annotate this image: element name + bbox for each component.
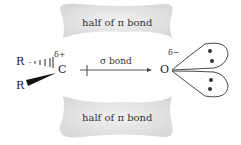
oxygen-partial-charge: δ− [168, 48, 180, 57]
lone-pair-dot [210, 59, 214, 63]
sigma-bond-label: σ bond [100, 56, 132, 66]
wedge-bond [26, 73, 56, 86]
lone-pair-dot [208, 49, 212, 53]
carbon-partial-charge: δ+ [54, 50, 66, 59]
top-pi-label: half of π bond [82, 17, 152, 28]
hashed-bond [30, 57, 53, 68]
r-group-bottom: R [16, 79, 24, 92]
lone-pair-dot [209, 78, 213, 82]
lone-pair-lobe-bottom [172, 71, 228, 97]
lone-pair-lobe-top [172, 43, 228, 70]
oxygen-atom: O [160, 63, 169, 76]
bottom-pi-label: half of π bond [82, 112, 152, 123]
carbon-atom: C [58, 63, 66, 76]
lone-pair-dot [208, 87, 212, 91]
r-group-top: R [16, 55, 24, 68]
